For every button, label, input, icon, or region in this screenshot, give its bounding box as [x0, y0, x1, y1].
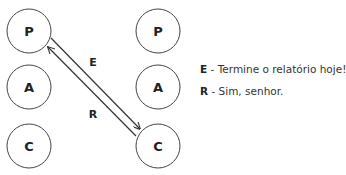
legend: E - Termine o relatório hoje! R - Sim, s… — [200, 58, 346, 102]
right-node-p: P — [136, 9, 180, 53]
right-node-a-label: A — [153, 80, 163, 95]
legend-text-r: Sim, senhor. — [219, 85, 284, 97]
legend-text-e: Termine o relatório hoje! — [218, 63, 346, 75]
edge-e-label: E — [89, 56, 97, 69]
right-node-c-label: C — [153, 139, 163, 154]
left-node-a: A — [7, 65, 51, 109]
legend-item-e: E - Termine o relatório hoje! — [200, 58, 346, 80]
left-node-c-label: C — [24, 139, 34, 154]
legend-key-r: R — [200, 85, 208, 97]
left-node-p-label: P — [24, 24, 34, 39]
legend-item-r: R - Sim, senhor. — [200, 80, 346, 102]
right-node-a: A — [136, 65, 180, 109]
legend-separator: - — [207, 63, 217, 75]
right-node-p-label: P — [153, 24, 163, 39]
left-node-p: P — [7, 9, 51, 53]
edge-r-label: R — [89, 108, 98, 121]
left-node-c: C — [7, 124, 51, 168]
left-node-a-label: A — [24, 80, 34, 95]
legend-separator: - — [208, 85, 218, 97]
right-node-c: C — [136, 124, 180, 168]
